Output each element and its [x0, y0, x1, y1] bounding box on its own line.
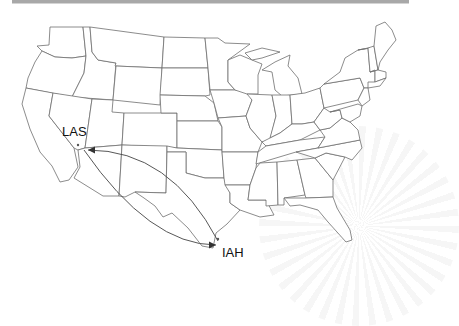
state-wisconsin [228, 55, 262, 94]
state-wyoming [113, 66, 162, 105]
state-kansas [177, 121, 222, 150]
state-colorado [122, 113, 177, 148]
state-new-mexico [119, 145, 167, 197]
state-florida [284, 197, 352, 242]
state-utah [85, 99, 124, 148]
airport-label-iah: IAH [222, 245, 244, 260]
airport-dot-las[interactable] [77, 144, 79, 146]
state-maine [374, 22, 396, 70]
airport-label-las: LAS [62, 124, 87, 139]
state-north-dakota [162, 37, 208, 68]
airport-dot-iah[interactable] [217, 238, 219, 240]
state-south-dakota [160, 68, 210, 96]
